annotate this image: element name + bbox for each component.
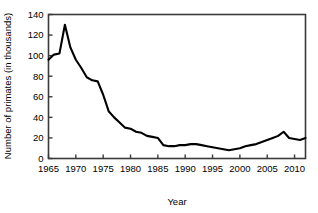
y-tick-label: 140 xyxy=(28,9,44,20)
y-axis-tick-labels: 140120100806040200 xyxy=(28,9,44,164)
y-tick-label: 80 xyxy=(33,71,44,82)
y-axis-title: Number of primates (in thousands) xyxy=(2,13,13,159)
primates-line-chart: 140120100806040200 196519701975198019851… xyxy=(0,0,318,213)
y-tick-label: 20 xyxy=(33,132,44,143)
y-tick-label: 40 xyxy=(33,112,44,123)
x-tick-label: 2010 xyxy=(284,163,305,174)
y-tick-label: 120 xyxy=(28,29,44,40)
x-tick-label: 1980 xyxy=(120,163,141,174)
x-tick-label: 1985 xyxy=(147,163,168,174)
plot-frame xyxy=(49,15,306,159)
x-axis-tick-labels: 1965197019751980198519901995200020052010 xyxy=(38,163,305,174)
x-tick-label: 1995 xyxy=(202,163,223,174)
y-tick-label: 100 xyxy=(28,50,44,61)
x-tick-label: 2005 xyxy=(257,163,278,174)
x-axis-title: Year xyxy=(167,196,186,207)
x-tick-label: 1970 xyxy=(65,163,86,174)
chart-canvas: 140120100806040200 196519701975198019851… xyxy=(0,0,318,213)
x-tick-label: 1975 xyxy=(93,163,114,174)
y-tick-label: 60 xyxy=(33,91,44,102)
x-tick-label: 1990 xyxy=(175,163,196,174)
x-tick-label: 2000 xyxy=(229,163,250,174)
x-tick-label: 1965 xyxy=(38,163,59,174)
